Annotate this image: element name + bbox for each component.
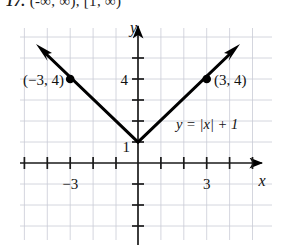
point-label-neg3-4: (−3, 4) bbox=[23, 72, 64, 89]
x-axis bbox=[20, 157, 262, 169]
point-marker-neg3-4 bbox=[66, 75, 75, 84]
equation-label: y = |x| + 1 bbox=[174, 116, 238, 132]
absolute-value-graph-figure: y x 4 1 −3 3 (−3, 4) (3, 4) y = |x| + 1 bbox=[0, 0, 283, 245]
point-label-3-4: (3, 4) bbox=[214, 72, 247, 89]
y-axis-label: y bbox=[128, 19, 138, 37]
y-tick-label-4: 4 bbox=[121, 72, 129, 88]
vertex-label-1: 1 bbox=[123, 139, 131, 155]
x-tick-label-3: 3 bbox=[203, 176, 211, 192]
y-axis bbox=[132, 26, 144, 245]
x-axis-label: x bbox=[257, 172, 265, 189]
point-marker-3-4 bbox=[202, 75, 211, 84]
x-tick-label-neg3: −3 bbox=[62, 176, 78, 192]
